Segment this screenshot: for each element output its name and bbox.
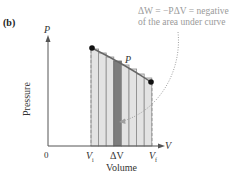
initial-state-point xyxy=(89,45,95,51)
origin-label: 0 xyxy=(44,151,49,160)
annotation-line-2: of the area under curve xyxy=(138,17,229,28)
curve-label: P xyxy=(125,55,131,65)
delta-v-bar xyxy=(114,61,122,146)
x-axis-label: Volume xyxy=(106,163,137,173)
v-final-label: Vf xyxy=(149,151,157,163)
final-state-point xyxy=(148,79,154,85)
pv-diagram: (b) P Pressure 0 V Vi ΔV Vf Volume P ΔW … xyxy=(0,0,232,176)
y-axis-symbol: P xyxy=(44,25,50,35)
x-axis-arrow-icon xyxy=(158,144,165,149)
y-axis-arrow-icon xyxy=(46,35,51,42)
v-initial-label: Vi xyxy=(86,151,94,163)
y-axis-label: Pressure xyxy=(22,82,32,116)
delta-v-label: ΔV xyxy=(110,151,124,161)
panel-label: (b) xyxy=(3,18,15,28)
annotation-text: ΔW = −PΔV = negative of the area under c… xyxy=(138,6,229,28)
x-axis-symbol: V xyxy=(165,141,171,151)
annotation-line-1: ΔW = −PΔV = negative xyxy=(138,6,229,17)
